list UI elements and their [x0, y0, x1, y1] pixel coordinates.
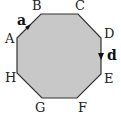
- vertex-label-d: D: [104, 26, 114, 41]
- vertex-label-h: H: [5, 70, 16, 85]
- vector-label-a: a: [17, 12, 26, 28]
- vector-label-d: d: [107, 47, 117, 63]
- vertex-label-b: B: [32, 0, 42, 13]
- vertex-label-a: A: [4, 31, 15, 46]
- vertex-label-c: C: [75, 0, 85, 13]
- vertex-label-g: G: [35, 100, 45, 115]
- octagon-diagram: A B C D E F G H a d: [0, 0, 121, 116]
- vertex-label-f: F: [78, 100, 87, 115]
- vertex-label-e: E: [104, 71, 114, 86]
